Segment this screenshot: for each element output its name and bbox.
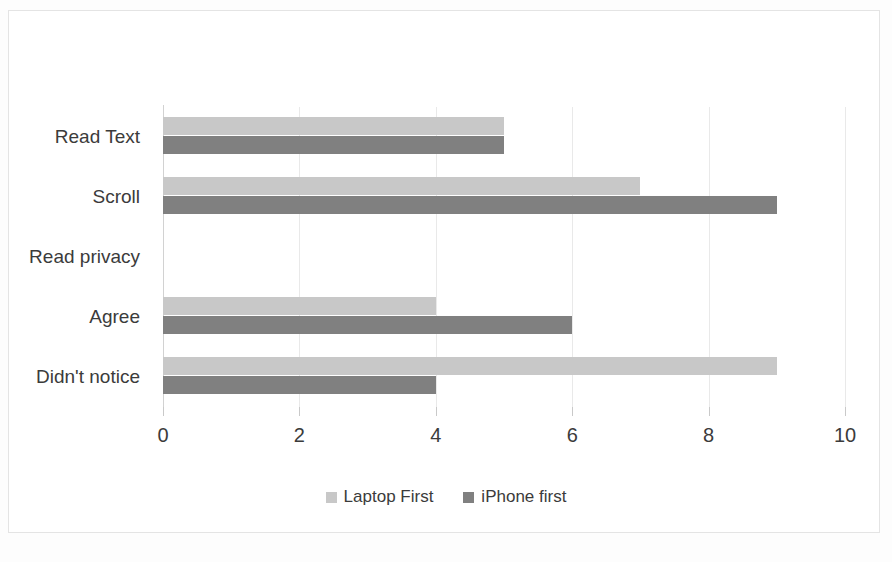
x-axis bbox=[163, 407, 845, 419]
x-axis-label: 2 bbox=[294, 424, 305, 447]
legend-swatch-icon bbox=[326, 492, 337, 503]
bar-group bbox=[163, 167, 845, 227]
y-axis-label: Scroll bbox=[92, 167, 140, 227]
legend-label: iPhone first bbox=[481, 487, 566, 507]
legend-swatch-icon bbox=[463, 492, 474, 503]
bar-1[interactable] bbox=[163, 376, 436, 394]
bar-group bbox=[163, 287, 845, 347]
x-tick-2 bbox=[299, 407, 300, 416]
x-tick-4 bbox=[436, 407, 437, 416]
x-tick-10 bbox=[845, 407, 846, 416]
bar-1[interactable] bbox=[163, 196, 777, 214]
x-axis-label: 4 bbox=[430, 424, 441, 447]
bar-group bbox=[163, 107, 845, 167]
bar-0[interactable] bbox=[163, 177, 640, 195]
y-axis-category-labels: Read TextScrollRead privacyAgreeDidn't n… bbox=[0, 107, 152, 407]
x-tick-0 bbox=[163, 407, 164, 416]
legend-label: Laptop First bbox=[344, 487, 434, 507]
x-axis-label: 6 bbox=[567, 424, 578, 447]
bar-1[interactable] bbox=[163, 136, 504, 154]
legend-item-0[interactable]: Laptop First bbox=[326, 487, 434, 507]
bar-0[interactable] bbox=[163, 117, 504, 135]
chart-legend: Laptop FirstiPhone first bbox=[0, 487, 892, 507]
bar-1[interactable] bbox=[163, 316, 572, 334]
x-tick-8 bbox=[709, 407, 710, 416]
bar-0[interactable] bbox=[163, 357, 777, 375]
bar-group bbox=[163, 227, 845, 287]
plot-area bbox=[163, 107, 845, 407]
x-tick-6 bbox=[572, 407, 573, 416]
gridline-x-10 bbox=[845, 107, 846, 407]
x-axis-label: 8 bbox=[703, 424, 714, 447]
y-axis-label: Read Text bbox=[55, 107, 140, 167]
x-axis-label: 10 bbox=[834, 424, 856, 447]
bar-chart: Read TextScrollRead privacyAgreeDidn't n… bbox=[0, 0, 892, 562]
y-axis-label: Didn't notice bbox=[36, 347, 140, 407]
bar-0[interactable] bbox=[163, 297, 436, 315]
legend-item-1[interactable]: iPhone first bbox=[463, 487, 566, 507]
bar-group bbox=[163, 347, 845, 407]
y-axis-label: Read privacy bbox=[29, 227, 140, 287]
x-axis-label: 0 bbox=[157, 424, 168, 447]
x-axis-tick-labels: 0246810 bbox=[0, 424, 892, 454]
y-axis-label: Agree bbox=[89, 287, 140, 347]
